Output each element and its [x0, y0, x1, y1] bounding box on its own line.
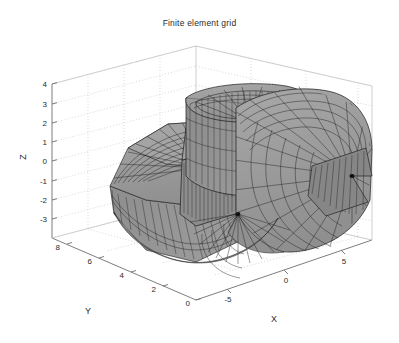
z-tick-1: 3: [43, 100, 48, 109]
y-axis-label: Y: [85, 306, 91, 316]
x-tick-0: -5: [224, 295, 232, 304]
z-tick-6: -2: [40, 196, 48, 205]
z-tick-labels: 4 3 2 1 0 -1 -2 -3: [40, 80, 48, 224]
z-tick-7: -3: [40, 215, 48, 224]
figure-canvas: Finite element grid: [0, 0, 399, 343]
mesh-right-lobe: [234, 85, 372, 254]
x-tick-2: 5: [342, 257, 347, 266]
z-tick-2: 2: [43, 119, 48, 128]
x-tick-labels: -5 0 5: [224, 257, 346, 304]
x-axis-label: X: [271, 314, 277, 324]
z-tick-4: 0: [43, 157, 48, 166]
z-tick-3: 1: [43, 138, 48, 147]
focal-node-center: [236, 212, 241, 216]
focal-node-right: [349, 174, 354, 178]
y-tick-1: 6: [88, 257, 93, 266]
plot-area: 4 3 2 1 0 -1 -2 -3 8 6 4 2 0 -5 0 5: [0, 0, 399, 343]
y-tick-0: 8: [56, 243, 61, 252]
z-tick-5: -1: [40, 177, 48, 186]
y-tick-3: 2: [152, 285, 157, 294]
z-axis-label: Z: [18, 154, 28, 160]
y-tick-2: 4: [120, 271, 125, 280]
z-tick-0: 4: [43, 80, 48, 89]
y-tick-4: 0: [186, 299, 191, 308]
x-tick-1: 0: [284, 276, 289, 285]
